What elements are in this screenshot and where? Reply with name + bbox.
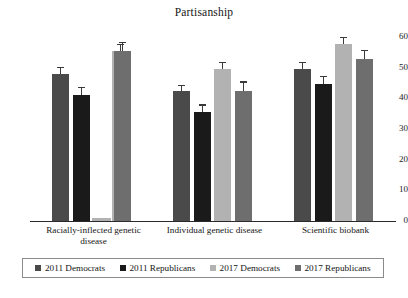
legend-label: 2011 Republicans	[129, 263, 195, 273]
bar-1-3	[235, 91, 252, 221]
y-axis-tick-label: 0	[384, 216, 408, 225]
bar-2-1	[315, 84, 332, 221]
bar-1-2	[214, 69, 231, 221]
bar-0-0	[52, 74, 69, 221]
error-bar-line-0-1	[81, 87, 82, 95]
error-bar-line-1-1	[202, 104, 203, 112]
x-category-label-line: Racially-inflected genetic	[25, 225, 162, 236]
legend-item-1[interactable]: 2011 Republicans	[120, 263, 195, 273]
chart-legend: 2011 Democrats2011 Republicans2017 Democ…	[22, 258, 384, 278]
y-axis-tick-label: 10	[384, 185, 408, 194]
y-axis	[0, 0, 28, 298]
chart-figure: Partisanship 0102030405060 Racially-infl…	[0, 0, 408, 298]
bar-0-1	[73, 95, 90, 221]
error-bar-cap-1-0	[178, 85, 185, 86]
legend-item-0[interactable]: 2011 Democrats	[35, 263, 105, 273]
y-axis-tick-label: 30	[384, 124, 408, 133]
x-category-label-line: Individual genetic disease	[146, 225, 283, 236]
x-category-label-1: Individual genetic disease	[146, 225, 283, 236]
bar-2-0	[294, 69, 311, 221]
bar-2-3	[356, 59, 373, 221]
chart-title: Partisanship	[0, 6, 408, 18]
error-bar-line-0-3	[122, 42, 123, 51]
bar-0-3	[114, 51, 131, 221]
legend-item-3[interactable]: 2017 Republicans	[295, 263, 371, 273]
error-bar-cap-1-1	[199, 104, 206, 105]
error-bar-line-2-3	[364, 50, 365, 60]
y-axis-tick-label: 40	[384, 93, 408, 102]
x-category-label-line: disease	[25, 236, 162, 247]
error-bar-cap-2-2	[340, 37, 347, 38]
error-bar-cap-0-0	[57, 67, 64, 68]
legend-label: 2011 Democrats	[45, 263, 105, 273]
legend-label: 2017 Democrats	[220, 263, 280, 273]
x-category-label-line: Scientific biobank	[267, 225, 404, 236]
y-axis-tick-label: 20	[384, 155, 408, 164]
bar-1-1	[194, 112, 211, 221]
error-bar-cap-0-3	[119, 42, 126, 43]
error-bar-cap-0-1	[78, 87, 85, 88]
error-bar-line-1-3	[243, 81, 244, 90]
y-axis-tick-mark	[30, 221, 33, 222]
bar-0-2	[92, 218, 111, 221]
error-bar-cap-2-3	[361, 50, 368, 51]
error-bar-line-2-1	[323, 76, 324, 84]
y-axis-tick-label: 50	[384, 63, 408, 72]
x-category-label-2: Scientific biobank	[267, 225, 404, 236]
y-axis-tick-label: 60	[384, 32, 408, 41]
legend-swatch-icon	[210, 265, 216, 271]
legend-label: 2017 Republicans	[304, 263, 370, 273]
error-bar-cap-1-2	[219, 62, 226, 63]
error-bar-cap-2-0	[299, 62, 306, 63]
bar-1-0	[173, 91, 190, 221]
legend-swatch-icon	[35, 265, 41, 271]
x-category-label-0: Racially-inflected geneticdisease	[25, 225, 162, 246]
legend-swatch-icon	[120, 265, 126, 271]
bar-2-2	[335, 44, 352, 221]
legend-item-2[interactable]: 2017 Democrats	[210, 263, 280, 273]
legend-swatch-icon	[295, 265, 301, 271]
error-bar-cap-1-3	[240, 81, 247, 82]
error-bar-cap-2-1	[320, 76, 327, 77]
